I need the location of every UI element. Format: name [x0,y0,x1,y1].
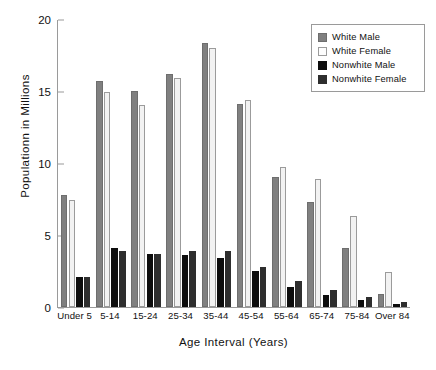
x-axis-title: Age Interval (Years) [57,336,410,348]
x-axis-tick-label: 65-74 [304,310,339,321]
x-axis-tick-label: 15-24 [128,310,163,321]
legend-item-label: Nonwhite Male [332,60,395,70]
legend: White MaleWhite FemaleNonwhite MaleNonwh… [311,24,425,92]
bar-group [58,20,93,307]
bar-group [93,20,128,307]
bar [245,100,252,307]
x-axis-tick-label: 5-14 [92,310,127,321]
bar [272,177,279,307]
bar [225,251,232,307]
bar [401,302,408,307]
bar-group [164,20,199,307]
x-axis-tick-label: Under 5 [57,310,92,321]
y-axis-tick-label: 5 [45,230,51,242]
y-axis-tick-label: 0 [45,302,51,314]
bar [104,92,111,307]
legend-item: Nonwhite Female [318,72,419,86]
x-axis-tick-label: Over 84 [375,310,410,321]
bar [131,91,138,307]
bar [280,167,287,307]
bar [84,277,91,307]
legend-item: White Male [318,30,419,44]
bar [111,248,118,307]
bar [315,179,322,307]
bar-group [128,20,163,307]
legend-item: Nonwhite Male [318,58,419,72]
legend-swatch-icon [318,61,327,70]
legend-item: White Female [318,44,419,58]
bar [119,251,126,307]
bar [147,254,154,307]
bar [385,272,392,307]
y-axis-tick-label: 20 [38,14,51,26]
x-axis-tick-labels: Under 55-1415-2425-3435-4445-5455-6465-7… [57,310,410,321]
bar [295,281,302,307]
bar-group [269,20,304,307]
bar [260,267,267,307]
y-axis-tick-mark [58,308,64,309]
y-axis-tick-label: 10 [38,158,51,170]
y-axis-title: Populationn in Millions [19,31,31,241]
legend-swatch-icon [318,47,327,56]
legend-swatch-icon [318,33,327,42]
bar [307,202,314,307]
bar [154,254,161,307]
bar [358,300,365,307]
bar [366,297,373,307]
legend-swatch-icon [318,75,327,84]
bar [252,271,259,307]
bar [61,195,68,307]
x-axis-tick-label: 35-44 [198,310,233,321]
bar [323,295,330,307]
bar [96,81,103,307]
bar [202,43,209,307]
bar-group [199,20,234,307]
bar [189,251,196,307]
x-axis-tick-label: 75-84 [339,310,374,321]
bar [69,200,76,307]
bar [287,287,294,307]
x-axis-tick-label: 25-34 [163,310,198,321]
bar-group [234,20,269,307]
bar [76,277,83,307]
bar [166,74,173,307]
bar [350,216,357,307]
bar [237,104,244,307]
bar [330,290,337,307]
bar [217,258,224,307]
bar-chart: Populationn in Millions 05101520 Under 5… [0,0,436,370]
bar [139,105,146,307]
y-axis-tick-label: 15 [38,86,51,98]
bar [182,255,189,307]
bar [209,48,216,307]
legend-item-label: White Male [332,32,380,42]
bar [174,78,181,307]
bar [393,304,400,307]
bar [342,248,349,307]
x-axis-tick-label: 55-64 [269,310,304,321]
bar [378,294,385,307]
legend-item-label: Nonwhite Female [332,74,407,84]
legend-item-label: White Female [332,46,391,56]
x-axis-tick-label: 45-54 [233,310,268,321]
